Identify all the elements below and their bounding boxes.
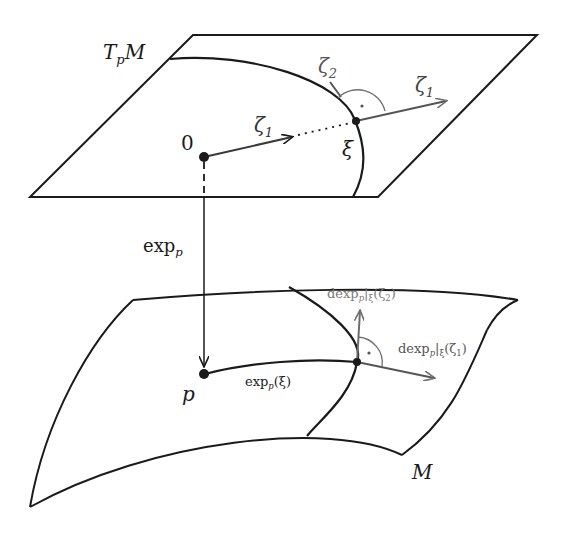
label-zeta1-outer: ζ1 xyxy=(415,75,434,99)
label-dexp-zeta2: dexpp|ξ(ζ2) xyxy=(327,287,396,302)
label-manifold: M xyxy=(412,462,432,482)
label-zeta2: ζ2 xyxy=(318,56,337,80)
label-dexp-zeta1: dexpp|ξ(ζ1) xyxy=(398,342,467,357)
dotted-ray xyxy=(298,122,355,135)
origin-point[interactable] xyxy=(199,152,209,162)
zeta1-inner-vector xyxy=(204,137,292,157)
xi-point[interactable] xyxy=(352,117,360,125)
label-point-p: p xyxy=(182,384,195,404)
label-origin: 0 xyxy=(181,133,194,153)
label-tangent-space: TpM xyxy=(103,42,145,66)
right-angle-tangent xyxy=(338,90,385,111)
manifold-surface xyxy=(30,290,518,507)
exponential-map-diagram: TpM 0 ζ1 ζ1 ζ2 ξ expp p expp(ξ) dexpp|ξ(… xyxy=(0,0,570,533)
dexp-zeta1-vector xyxy=(357,362,434,378)
label-exp-map: expp xyxy=(143,237,183,259)
geodesic xyxy=(205,361,357,375)
exp-xi-point[interactable] xyxy=(353,358,361,366)
diagram-drawing xyxy=(0,0,570,533)
p-point[interactable] xyxy=(199,369,209,379)
label-xi: ξ xyxy=(342,139,353,159)
label-exp-of-xi: expp(ξ) xyxy=(245,375,291,390)
zeta1-outer-vector xyxy=(356,101,446,121)
label-zeta1-inner: ζ1 xyxy=(254,115,273,139)
